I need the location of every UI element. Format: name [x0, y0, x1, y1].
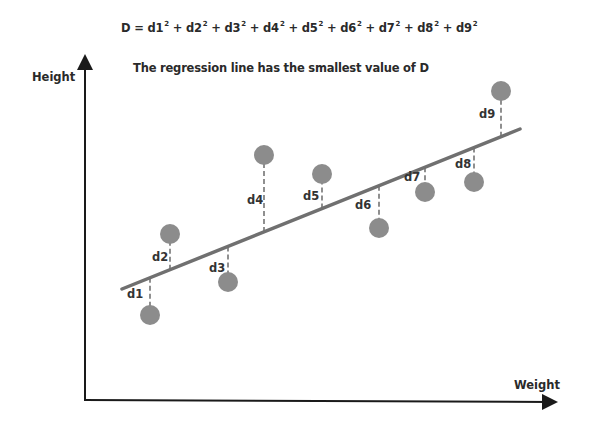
data-point-d3 [218, 272, 238, 292]
residual-label-d4: d4 [247, 193, 263, 207]
residual-lines [150, 100, 501, 306]
residual-label-d8: d8 [455, 157, 471, 171]
residual-label-d2: d2 [152, 250, 168, 264]
residual-label-d7: d7 [404, 170, 420, 184]
data-point-d6 [369, 218, 389, 238]
regression-line [122, 129, 520, 289]
residual-label-d6: d6 [355, 198, 371, 212]
data-point-d2 [160, 224, 180, 244]
data-point-d9 [491, 81, 511, 101]
residual-label-d5: d5 [303, 189, 319, 203]
regression-diagram [0, 0, 589, 425]
x-axis [84, 400, 550, 402]
residual-label-d1: d1 [127, 287, 143, 301]
data-point-d1 [140, 305, 160, 325]
residual-label-d3: d3 [209, 261, 225, 275]
data-point-d5 [312, 164, 332, 184]
data-point-d7 [415, 182, 435, 202]
data-point-d4 [254, 145, 274, 165]
residual-label-d9: d9 [479, 107, 495, 121]
data-points [140, 81, 511, 325]
data-point-d8 [464, 172, 484, 192]
